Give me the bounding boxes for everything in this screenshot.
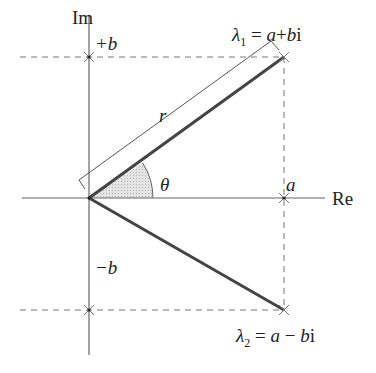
- tick-label-plus-b: +b: [95, 34, 117, 53]
- radius-bracket: [79, 41, 279, 189]
- real-axis-label: Re: [332, 189, 353, 208]
- vector-lambda1: [89, 57, 284, 198]
- tick-label-a: a: [286, 175, 296, 194]
- diagram-graphics: [0, 0, 376, 373]
- angle-label-theta: θ: [160, 175, 169, 194]
- tick-label-minus-b: −b: [95, 258, 117, 277]
- vector-lambda2: [89, 198, 284, 310]
- eigenvalue-2-label: λ2 = a − bi: [236, 326, 315, 349]
- complex-plane-diagram: Im Re +b −b a θ r λ1 = a+bi λ2 = a − bi: [0, 0, 376, 373]
- eigenvalue-1-label: λ1 = a+bi: [232, 25, 301, 48]
- radius-label: r: [159, 106, 166, 125]
- imag-axis-label: Im: [72, 8, 93, 27]
